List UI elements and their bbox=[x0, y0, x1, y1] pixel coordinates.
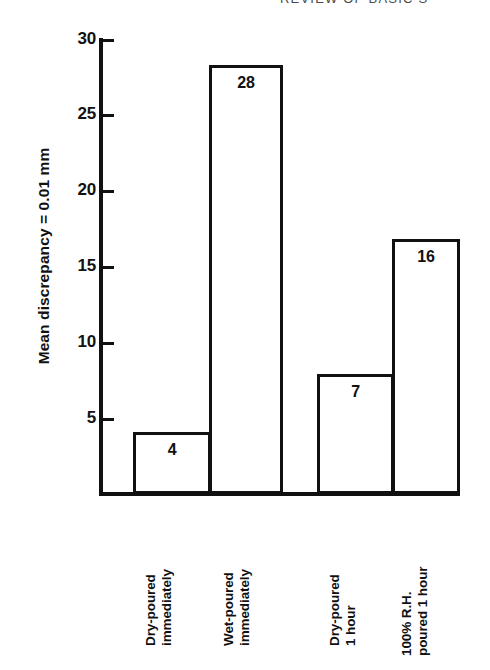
y-tick-label-5: 5 bbox=[36, 408, 96, 428]
plot-area: 30 25 20 15 10 5 4 28 7 16 bbox=[0, 0, 490, 520]
y-tick-mark bbox=[99, 418, 114, 421]
x-category-line-1: Wet-poured bbox=[221, 572, 236, 646]
y-tick-label-25: 25 bbox=[36, 104, 96, 124]
y-tick-label-30: 30 bbox=[36, 29, 96, 49]
x-category-line-2: poured 1 hour bbox=[415, 567, 430, 656]
y-tick-mark bbox=[99, 39, 114, 42]
bar-wet-poured-immediately[interactable] bbox=[209, 65, 283, 494]
bar-value-label-0: 4 bbox=[133, 441, 211, 459]
y-tick-mark bbox=[99, 266, 114, 269]
x-category-line-1: Dry-poured bbox=[327, 574, 342, 646]
bar-value-label-1: 28 bbox=[209, 74, 283, 92]
x-category-line-2: 1 hour bbox=[343, 605, 358, 646]
x-category-label-2: Dry-poured 1 hour bbox=[327, 496, 358, 646]
y-tick-label-10: 10 bbox=[36, 332, 96, 352]
x-category-label-3: 100% R.H. poured 1 hour bbox=[399, 506, 430, 656]
y-tick-label-20: 20 bbox=[36, 180, 96, 200]
x-category-label-0: Dry-poured immediately bbox=[143, 496, 174, 646]
x-category-line-2: immediately bbox=[237, 569, 252, 646]
y-tick-label-15: 15 bbox=[36, 256, 96, 276]
x-category-line-1: Dry-poured bbox=[143, 574, 158, 646]
y-tick-mark bbox=[99, 342, 114, 345]
x-category-line-2: immediately bbox=[159, 569, 174, 646]
bar-chart-figure: REVIEW OF BASIC S Mean discrepancy = 0.0… bbox=[0, 0, 490, 670]
x-category-line-1: 100% R.H. bbox=[399, 592, 414, 656]
x-category-label-1: Wet-poured immediately bbox=[221, 496, 252, 646]
bar-value-label-2: 7 bbox=[317, 383, 394, 401]
bar-value-label-3: 16 bbox=[392, 248, 460, 266]
y-tick-mark bbox=[99, 190, 114, 193]
y-tick-mark bbox=[99, 114, 114, 117]
bar-100-rh-poured-1-hour[interactable] bbox=[392, 239, 460, 494]
